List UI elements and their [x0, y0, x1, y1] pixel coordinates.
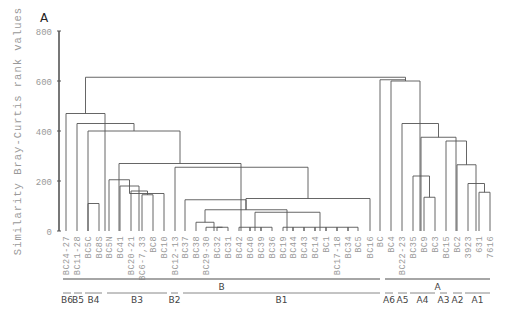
subgroup-label: B3 [131, 295, 143, 305]
leaf-label: 3923 [464, 236, 474, 258]
leaf-label: BC41 [116, 236, 126, 258]
y-tick-label: 400 [36, 128, 52, 138]
major-group-label: A [434, 282, 441, 292]
leaf-label: BC37 [181, 236, 191, 258]
cluster-groups: BAB6B5B4B3B2B1A6A5A4A3A2A1 [61, 279, 490, 305]
leaf-label: BC [376, 236, 386, 247]
leaf-label: BC12-13 [171, 236, 181, 275]
leaf-label: BC22-23 [398, 236, 408, 275]
leaf-label: BC29-30 [202, 236, 212, 275]
subgroup-label: A1 [472, 295, 484, 305]
leaf-label: BC4 [387, 236, 397, 253]
leaf-label: BC6-7,33 [138, 236, 148, 281]
leaf-label: BC1 [322, 236, 332, 253]
leaf-label: BC15 [442, 236, 452, 258]
leaf-label: BC11-28 [73, 236, 83, 275]
leaf-label: BC43 [300, 236, 310, 258]
dendrogram-figure: A 0200400600800 Similarity Bray-Curtis r… [0, 0, 514, 320]
subgroup-label: B5 [72, 295, 84, 305]
subgroup-label: B4 [88, 295, 100, 305]
subgroup-label: A5 [397, 295, 409, 305]
dendrogram-plot: 0200400600800 Similarity Bray-Curtis ran… [0, 0, 514, 320]
subgroup-label: A3 [438, 295, 450, 305]
y-axis: 0200400600800 [36, 28, 61, 238]
leaf-label: BC17-18 [333, 236, 343, 275]
leaf-label: BC3 [431, 236, 441, 253]
y-tick-label: 600 [36, 78, 52, 88]
y-tick-label: 800 [36, 28, 52, 38]
leaf-label: BC19 [279, 236, 289, 258]
leaf-label: BC2 [453, 236, 463, 253]
leaf-label: BC5 [354, 236, 364, 253]
major-group-label: B [218, 282, 224, 292]
leaf-label: 7616 [486, 236, 496, 258]
subgroup-label: A2 [452, 295, 464, 305]
leaf-label: BC24-27 [62, 236, 72, 275]
leaf-label: BC14 [311, 236, 321, 258]
leaf-label: BC16 [366, 236, 376, 258]
leaf-label: BC8S [95, 236, 105, 258]
leaf-label: BC38 [192, 236, 202, 258]
dendrogram-tree [66, 77, 490, 231]
leaf-label: BC10 [160, 236, 170, 258]
leaf-label: BC35 [409, 236, 419, 258]
subgroup-label: A6 [383, 295, 395, 305]
leaf-label: BC5N [105, 236, 115, 258]
leaf-label: BC42 [235, 236, 245, 258]
leaf-label: BC32 [213, 236, 223, 258]
leaf-label: BC8 [149, 236, 159, 253]
leaf-label: BC5C [84, 236, 94, 258]
leaf-label: 631 [475, 236, 485, 253]
leaf-labels: BC24-27BC11-28BC5CBC8SBC5NBC41BC20-21BC6… [62, 236, 496, 281]
subgroup-label: B1 [276, 295, 288, 305]
subgroup-label: A4 [417, 295, 429, 305]
leaf-label: BC39 [257, 236, 267, 258]
y-axis-label: Similarity Bray-Curtis rank values [12, 7, 24, 255]
subgroup-label: B2 [169, 295, 181, 305]
leaf-label: BC40 [246, 236, 256, 258]
leaf-label: BC20-21 [127, 236, 137, 275]
leaf-label: BC31 [224, 236, 234, 258]
leaf-label: BC36 [268, 236, 278, 258]
y-tick-label: 200 [36, 178, 52, 188]
leaf-label: BC34 [344, 236, 354, 258]
leaf-label: BC9 [420, 236, 430, 253]
leaf-label: BC44 [289, 236, 299, 258]
y-tick-label: 0 [47, 228, 52, 238]
